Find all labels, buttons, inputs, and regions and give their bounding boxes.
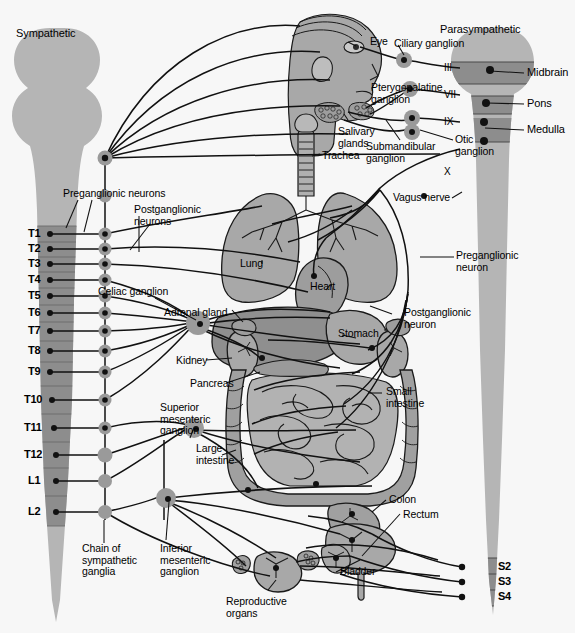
label-large-intestine: Large intestine: [196, 443, 234, 466]
label-kidney: Kidney: [176, 355, 208, 367]
label-vagus-nerve: Vagus nerve: [393, 192, 450, 204]
label-cranial-nerve-vii: VII: [444, 89, 456, 101]
segment-label-t8: T8: [28, 345, 40, 357]
label-postganglionic-neuron: Postganglionic neuron: [404, 307, 471, 330]
segment-label-t11: T11: [24, 422, 41, 434]
label-eye: Eye: [370, 36, 388, 48]
label-heart: Heart: [310, 281, 335, 293]
small-intestine-shape: [247, 373, 398, 486]
label-celiac-ganglion: Celiac ganglion: [98, 286, 168, 298]
label-midbrain: Midbrain: [527, 67, 568, 79]
label-postganglionic-neurons: Postganglionic neurons: [134, 204, 201, 227]
label-salivary-glands: Salivary glands: [338, 126, 375, 149]
label-pons: Pons: [527, 98, 552, 110]
label-cranial-nerve-x: X: [444, 166, 451, 178]
segment-label-t6: T6: [28, 307, 40, 319]
label-small-intestine: Small intestine: [386, 386, 424, 409]
sympathetic-spinal-cord: [5, 28, 115, 622]
segment-label-t2: T2: [28, 243, 40, 255]
label-pterygopalatine-ganglion: Pterygopalatine ganglion: [371, 82, 442, 105]
segment-label-s3: S3: [498, 576, 511, 588]
label-preganglionic-neuron: Preganglionic neuron: [456, 250, 518, 273]
segment-label-t9: T9: [28, 366, 40, 378]
segment-label-t1: T1: [28, 228, 40, 240]
label-preganglionic-neurons: Preganglionic neurons: [63, 188, 165, 200]
label-bladder: Bladder: [340, 566, 376, 578]
label-reproductive-organs: Reproductive organs: [226, 596, 287, 619]
label-adrenal-gland: Adrenal gland: [164, 307, 228, 319]
label-chain-of-sympathetic-ganglia: Chain of sympathetic ganglia: [82, 543, 137, 578]
segment-label-t4: T4: [28, 274, 40, 286]
diagram-canvas: [0, 0, 575, 633]
label-cranial-nerve-iii: III: [444, 62, 452, 74]
label-superior-mesenteric-ganglion: Superior mesenteric ganglion: [160, 402, 210, 437]
label-inferior-mesenteric-ganglion: Inferior mesenteric ganglion: [160, 543, 210, 578]
label-submandibular-ganglion: Submandibular ganglion: [366, 141, 435, 164]
label-colon: Colon: [389, 494, 416, 506]
label-stomach: Stomach: [338, 328, 379, 340]
label-ciliary-ganglion: Ciliary ganglion: [394, 38, 464, 50]
label-lung: Lung: [240, 258, 263, 270]
segment-label-l2: L2: [28, 506, 40, 518]
autonomic-nervous-system-diagram: Sympathetic Parasympathetic Preganglioni…: [0, 0, 575, 633]
label-trachea: Trachea: [322, 150, 359, 162]
segment-label-t12: T12: [24, 449, 42, 461]
segment-label-t7: T7: [28, 325, 40, 337]
segment-label-l1: L1: [28, 475, 40, 487]
heading-parasympathetic: Parasympathetic: [440, 24, 520, 36]
heading-sympathetic: Sympathetic: [16, 28, 75, 40]
segment-label-s4: S4: [498, 591, 511, 603]
segment-label-t10: T10: [24, 394, 42, 406]
reproductive-organs-shape: [232, 544, 350, 592]
label-medulla: Medulla: [527, 124, 565, 136]
label-otic-ganglion: Otic ganglion: [455, 134, 494, 157]
label-pancreas: Pancreas: [190, 378, 234, 390]
label-rectum: Rectum: [403, 509, 439, 521]
segment-label-t3: T3: [28, 258, 40, 270]
label-cranial-nerve-ix: IX: [444, 116, 453, 128]
segment-label-s2: S2: [498, 561, 511, 573]
segment-label-t5: T5: [28, 290, 40, 302]
